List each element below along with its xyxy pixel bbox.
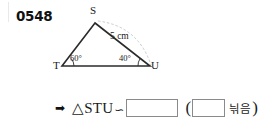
similar-symbol: ∽: [114, 103, 124, 117]
right-arrow-icon: ➡: [55, 102, 65, 114]
problem-page: 0548 S T U 60° 40° 5 cm ➡ △ STU ∽ ( 늮음 ): [0, 0, 272, 135]
triangle-figure: S T U 60° 40° 5 cm: [46, 4, 186, 80]
side-length-label-su: 5 cm: [110, 31, 129, 41]
answer-line: ➡ △ STU ∽ ( 늮음 ): [55, 96, 258, 120]
triangle-symbol: △: [72, 99, 84, 117]
similarity-word-label: 늮음: [229, 100, 251, 116]
triangle-diagram-svg: [46, 4, 186, 80]
answer-blank-triangle[interactable]: [126, 99, 178, 117]
angle-label-t: 60°: [70, 53, 82, 63]
answer-blank-condition[interactable]: [192, 99, 225, 117]
vertex-label-u: U: [151, 59, 159, 71]
angle-label-u: 40°: [119, 53, 131, 63]
margin-rule: [8, 2, 9, 22]
vertex-label-t: T: [53, 59, 60, 71]
triangle-name: STU: [84, 100, 113, 117]
vertex-label-s: S: [90, 4, 96, 16]
paren-open: (: [185, 98, 191, 118]
paren-close: ): [252, 98, 258, 118]
angle-arc-u: [138, 59, 140, 66]
